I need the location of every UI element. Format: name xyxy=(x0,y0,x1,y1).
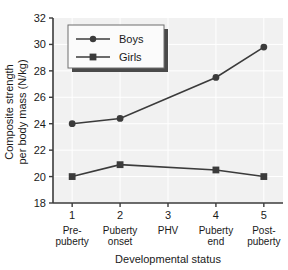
y-tick-label: 18 xyxy=(34,197,46,209)
x-tick-label: 4 xyxy=(213,209,219,221)
x-category-label: Post- xyxy=(252,225,275,236)
data-point-circle xyxy=(260,44,267,51)
data-point-circle xyxy=(117,115,124,122)
x-category-label: PHV xyxy=(158,225,179,236)
y-axis-title: Composite strength per body mass (N/kg) xyxy=(3,59,28,164)
data-point-circle xyxy=(69,120,76,127)
data-point-square xyxy=(213,167,220,174)
square-marker-icon xyxy=(90,54,97,61)
legend-label-boys: Boys xyxy=(119,33,144,45)
y-tick-label: 20 xyxy=(34,171,46,183)
y-tick-label: 32 xyxy=(34,12,46,24)
x-category-label: Puberty xyxy=(103,225,137,236)
x-tick-label: 1 xyxy=(69,209,75,221)
legend-label-girls: Girls xyxy=(119,51,142,63)
x-axis-ticks: 1Pre-puberty2Pubertyonset3PHV4Pubertyend… xyxy=(55,203,280,247)
circle-marker-icon xyxy=(90,36,96,42)
x-axis-title: Developmental status xyxy=(115,253,221,265)
y-tick-label: 26 xyxy=(34,91,46,103)
x-tick-label: 3 xyxy=(165,209,171,221)
data-point-square xyxy=(260,173,267,180)
y-axis-title-line1: Composite strength xyxy=(3,64,15,159)
x-tick-label: 5 xyxy=(261,209,267,221)
y-axis-ticks: 1820222426283032 xyxy=(34,12,53,209)
x-category-label: onset xyxy=(108,236,133,247)
composite-strength-line-chart: 1820222426283032 1Pre-puberty2Pubertyons… xyxy=(0,0,288,270)
x-tick-label: 2 xyxy=(117,209,123,221)
y-tick-label: 30 xyxy=(34,38,46,50)
data-point-circle xyxy=(213,74,220,81)
x-category-label: Puberty xyxy=(199,225,233,236)
data-point-square xyxy=(117,161,124,168)
x-category-label: puberty xyxy=(55,236,88,247)
chart-legend: Boys Girls xyxy=(68,25,168,72)
y-axis-title-line2: per body mass (N/kg) xyxy=(16,59,28,164)
legend-box xyxy=(68,25,164,68)
x-category-label: Pre- xyxy=(63,225,82,236)
x-category-label: puberty xyxy=(247,236,280,247)
chart-figure: 1820222426283032 1Pre-puberty2Pubertyons… xyxy=(0,0,288,270)
data-point-square xyxy=(69,173,76,180)
y-tick-label: 28 xyxy=(34,65,46,77)
x-category-label: end xyxy=(208,236,225,247)
y-tick-label: 24 xyxy=(34,118,46,130)
y-tick-label: 22 xyxy=(34,144,46,156)
